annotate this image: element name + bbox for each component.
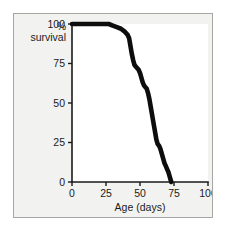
plot-canvas: 0255075100 0255075100 % survival Age (da… [14,14,212,217]
y-axis-label-line2: survival [30,31,66,43]
figure-panel: 0255075100 0255075100 % survival Age (da… [13,13,213,218]
x-tick-label: 75 [168,187,180,199]
y-tick-label: 0 [59,176,65,188]
x-tick-label: 100 [199,187,212,199]
y-tick-label: 50 [53,97,65,109]
x-axis-title: Age (days) [115,201,166,213]
survival-chart: 0255075100 0255075100 % survival Age (da… [14,14,212,217]
plot-area-background [72,24,208,182]
y-tick-label: 75 [53,57,65,69]
y-tick-label: 25 [53,136,65,148]
figure-root: 0255075100 0255075100 % survival Age (da… [0,0,228,233]
x-tick-label: 25 [100,187,112,199]
x-tick-label: 0 [69,187,75,199]
x-tick-label: 50 [134,187,146,199]
